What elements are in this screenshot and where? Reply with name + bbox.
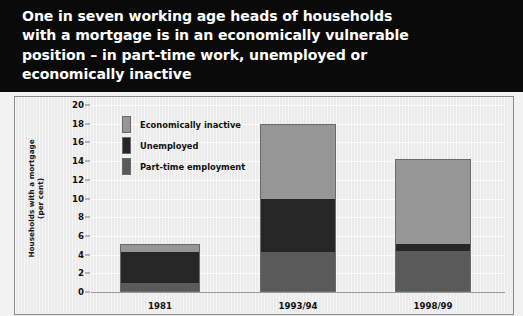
y-tick-mark <box>85 292 90 293</box>
y-tick-label: 8 <box>78 212 84 222</box>
y-tick-label: 10 <box>72 194 84 204</box>
x-axis-label: 1998/99 <box>413 301 452 311</box>
gridline <box>91 105 505 106</box>
figure-root: One in seven working age heads of househ… <box>0 0 523 316</box>
legend-swatch <box>122 116 131 133</box>
x-axis-label: 1981 <box>148 301 172 311</box>
bar-segment-part-time-employment[interactable] <box>260 252 336 292</box>
bar-1981[interactable]: 1981 <box>120 244 200 292</box>
legend-label: Economically inactive <box>140 120 241 130</box>
legend-item[interactable]: Part-time employment <box>122 156 245 177</box>
y-axis-title: Households with a mortgage (per cent) <box>27 128 46 268</box>
y-tick-label: 2 <box>78 268 84 278</box>
legend: Economically inactiveUnemployedPart-time… <box>122 114 245 177</box>
x-axis-label: 1993/94 <box>278 301 317 311</box>
y-tick-mark <box>85 161 90 162</box>
legend-label: Part-time employment <box>140 162 245 172</box>
bar-segment-economically-inactive[interactable] <box>260 124 336 199</box>
bar-segment-economically-inactive[interactable] <box>395 159 471 244</box>
y-tick-label: 14 <box>72 156 84 166</box>
y-tick-mark <box>85 273 90 274</box>
legend-item[interactable]: Economically inactive <box>122 114 245 135</box>
y-tick-mark <box>85 179 90 180</box>
legend-item[interactable]: Unemployed <box>122 135 245 156</box>
bar-segment-part-time-employment[interactable] <box>395 251 471 292</box>
title-banner: One in seven working age heads of househ… <box>0 0 523 92</box>
bar-segment-unemployed[interactable] <box>260 199 336 252</box>
y-tick-mark <box>85 198 90 199</box>
bar-segment-unemployed[interactable] <box>120 252 200 283</box>
y-tick-mark <box>85 142 90 143</box>
y-tick-mark <box>85 105 90 106</box>
legend-label: Unemployed <box>140 141 198 151</box>
bar-1993-94[interactable]: 1993/94 <box>260 124 336 292</box>
y-tick-mark <box>85 123 90 124</box>
y-tick-mark <box>85 217 90 218</box>
chart-panel: Households with a mortgage (per cent) 02… <box>14 96 514 315</box>
y-tick-mark <box>85 235 90 236</box>
y-tick-label: 18 <box>72 119 84 129</box>
bar-segment-unemployed[interactable] <box>395 244 471 251</box>
y-tick-label: 16 <box>72 137 84 147</box>
bar-segment-economically-inactive[interactable] <box>120 244 200 251</box>
y-tick-label: 6 <box>78 231 84 241</box>
y-tick-label: 0 <box>78 287 84 297</box>
y-tick-mark <box>85 254 90 255</box>
x-axis-line <box>91 292 505 293</box>
y-tick-label: 12 <box>72 175 84 185</box>
y-tick-label: 20 <box>72 100 84 110</box>
legend-swatch <box>122 158 131 175</box>
legend-swatch <box>122 137 131 154</box>
chart-title: One in seven working age heads of househ… <box>22 7 509 85</box>
bar-1998-99[interactable]: 1998/99 <box>395 159 471 292</box>
y-tick-label: 4 <box>78 250 84 260</box>
bar-segment-part-time-employment[interactable] <box>120 283 200 292</box>
